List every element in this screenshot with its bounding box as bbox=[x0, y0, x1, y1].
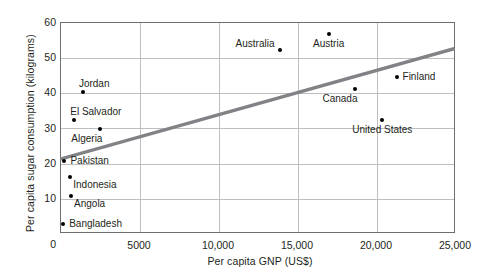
data-point-label: Angola bbox=[74, 199, 105, 209]
y-tick-0: 0 bbox=[30, 239, 56, 249]
x-tick-5000: 5000 bbox=[104, 240, 174, 250]
y-tick-50: 50 bbox=[30, 52, 56, 62]
y-tick-60: 60 bbox=[30, 17, 56, 27]
x-tick-10000: 10,000 bbox=[183, 240, 253, 250]
data-point-label: United States bbox=[352, 125, 412, 135]
x-tick-15000: 15,000 bbox=[262, 240, 332, 250]
data-point bbox=[395, 75, 399, 79]
x-tick-25000: 25,000 bbox=[420, 240, 480, 250]
x-axis-title: Per capita GNP (US$) bbox=[20, 255, 480, 267]
data-point-label: Algeria bbox=[71, 134, 102, 144]
y-tick-40: 40 bbox=[30, 87, 56, 97]
data-point-label: Australia bbox=[236, 39, 275, 49]
data-point bbox=[68, 175, 72, 179]
data-point-label: El Salvador bbox=[70, 107, 121, 117]
data-point-label: Canada bbox=[322, 94, 357, 104]
data-point-label: Finland bbox=[403, 72, 436, 82]
y-tick-30: 30 bbox=[30, 123, 56, 133]
data-point-label: Bangladesh bbox=[69, 219, 122, 229]
data-point-label: Indonesia bbox=[73, 180, 116, 190]
data-point bbox=[327, 32, 331, 36]
y-tick-20: 20 bbox=[30, 158, 56, 168]
y-tick-10: 10 bbox=[30, 193, 56, 203]
data-point-label: Jordan bbox=[79, 79, 110, 89]
data-point-label: Austria bbox=[313, 39, 344, 49]
data-point bbox=[278, 48, 282, 52]
data-point-label: Pakistan bbox=[70, 156, 108, 166]
x-tick-20000: 20,000 bbox=[341, 240, 411, 250]
scatter-chart: Per capita sugar consumption (kilograms)… bbox=[0, 0, 480, 277]
